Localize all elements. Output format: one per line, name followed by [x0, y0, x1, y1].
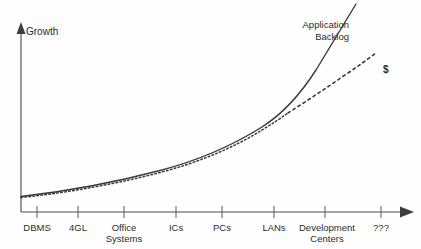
growth-vs-application-backlog-chart: Growth Application Backlog $ DBMS 4GL Of… — [0, 0, 421, 249]
dollar-curve-dashed-segment — [288, 53, 376, 113]
dollar-annotation: $ — [383, 64, 389, 75]
x-label-unknown: ??? — [373, 222, 389, 233]
x-label-development-centers: Development Centers — [299, 222, 355, 244]
x-axis-arrowhead — [400, 207, 414, 218]
x-label-ics: ICs — [169, 222, 183, 233]
application-backlog-annotation-line1: Application — [303, 19, 349, 31]
x-label-lans: LANs — [262, 222, 285, 233]
x-label-4gl: 4GL — [69, 222, 87, 233]
application-backlog-annotation: Application Backlog — [303, 19, 349, 42]
y-axis-title: Growth — [26, 26, 58, 37]
dollar-curve-dotted-segment — [21, 113, 288, 198]
x-label-office-systems-line1: Office — [106, 222, 142, 233]
chart-canvas — [0, 0, 421, 249]
x-label-dbms: DBMS — [23, 222, 50, 233]
x-label-development-centers-line1: Development — [299, 222, 355, 233]
x-label-office-systems: Office Systems — [106, 222, 142, 244]
x-label-development-centers-line2: Centers — [299, 233, 355, 244]
x-label-office-systems-line2: Systems — [106, 233, 142, 244]
x-label-pcs: PCs — [213, 222, 231, 233]
y-axis-arrowhead — [17, 22, 26, 34]
application-backlog-annotation-line2: Backlog — [303, 31, 349, 43]
